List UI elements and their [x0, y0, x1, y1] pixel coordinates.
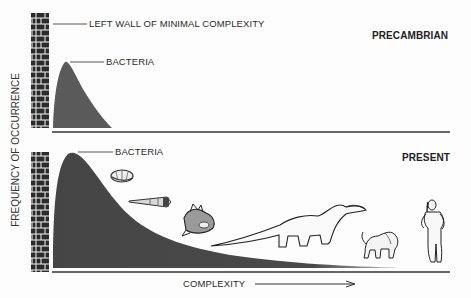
bacteria-distribution-precambrian: [53, 62, 112, 128]
dinosaur-icon: [211, 205, 366, 247]
left-wall-label: LEFT WALL OF MINIMAL COMPLEXITY: [89, 19, 265, 29]
diagram-graphics: [0, 0, 471, 298]
trilobite-icon: [111, 170, 133, 182]
bacteria-label-bottom: BACTERIA: [115, 147, 163, 157]
bacteria-label-top: BACTERIA: [106, 57, 154, 67]
complexity-diagram: FREQUENCY OF OCCURRENCE LEFT WALL OF MIN…: [0, 0, 471, 298]
era-label-precambrian: PRECAMBRIAN: [372, 31, 448, 41]
present-panel: [31, 152, 450, 287]
human-icon: [422, 200, 445, 262]
left-wall-bricks-top: [31, 13, 49, 128]
nautiloid-shell-icon: [129, 197, 171, 207]
x-axis-label: COMPLEXITY: [183, 279, 245, 289]
baboon-icon: [362, 232, 398, 258]
y-axis-label: FREQUENCY OF OCCURRENCE: [10, 73, 21, 227]
fish-icon: [182, 204, 214, 236]
left-wall-bricks-bottom: [31, 152, 49, 272]
era-label-present: PRESENT: [402, 153, 450, 163]
complexity-arrow: [255, 281, 355, 287]
